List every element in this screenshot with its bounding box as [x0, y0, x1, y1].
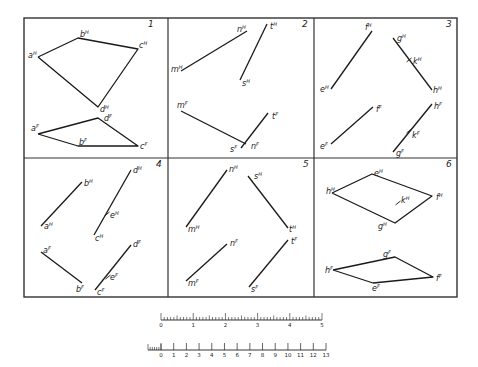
point-label-e-F: eF	[320, 141, 328, 152]
point-label-b-F: bF	[76, 284, 84, 295]
point-label-e-H: eH	[374, 168, 383, 179]
scale-label: 6	[235, 352, 239, 358]
point-label-n-F: nF	[230, 238, 238, 249]
point-label-n-F: nF	[251, 141, 259, 152]
point-label-k-H: kH	[413, 56, 422, 67]
line-st-frontal	[249, 240, 288, 287]
horizontal-projection-quadrilateral-abcd	[38, 38, 138, 107]
line-mn-horizontal	[181, 31, 247, 71]
panel-4: 4bHaHdHeHcHaFbFdFeFcF	[41, 159, 162, 297]
point-label-a-F: aF	[31, 123, 39, 134]
line-ef-frontal	[331, 107, 373, 144]
point-label-h-F: hF	[434, 101, 442, 112]
panel-1: 1aHbHcHdHaFbFcFdF	[28, 19, 154, 151]
point-label-a-F: aF	[43, 245, 51, 256]
scale-label: 1	[191, 322, 195, 328]
point-label-m-H: mH	[171, 64, 183, 75]
drawing-canvas: 1aHbHcHdHaFbFcFdF2mHnHtHsHmFtFsFnF3eHfHg…	[0, 0, 478, 367]
point-label-f-H: fH	[365, 22, 372, 33]
panel-3: 3eHfHgHkHhHeFfFhFkFgF	[320, 19, 452, 158]
line-ef-horizontal	[331, 31, 372, 89]
scale-label: 12	[310, 352, 317, 358]
point-label-k-H: kH	[401, 195, 410, 206]
panel-number: 1	[148, 19, 154, 29]
line-ab-frontal	[41, 252, 82, 283]
scale-label: 13	[323, 352, 330, 358]
point-label-f-H: fH	[436, 192, 443, 203]
point-label-f-F: fF	[376, 104, 382, 115]
scale-label: 8	[261, 352, 265, 358]
point-label-s-H: sH	[254, 171, 262, 182]
scale-label: 3	[256, 322, 260, 328]
point-label-s-F: sF	[230, 144, 237, 155]
panel-number: 2	[302, 19, 308, 29]
scale-label: 2	[185, 352, 189, 358]
line-gh-frontal	[393, 104, 432, 152]
scale-label: 0	[159, 322, 163, 328]
scale-label: 5	[320, 322, 324, 328]
point-label-k-F: kF	[412, 130, 420, 141]
scale-label: 1	[172, 352, 176, 358]
line-mn-horizontal	[186, 170, 227, 227]
point-label-b-H: bH	[84, 178, 93, 189]
point-label-g-H: gH	[397, 33, 406, 44]
point-label-c-F: cF	[140, 141, 147, 152]
horizontal-projection-quadrilateral-efgh	[332, 174, 432, 223]
scale-label: 4	[210, 352, 214, 358]
point-label-s-H: sH	[242, 78, 250, 89]
point-label-m-H: mH	[188, 224, 200, 235]
point-label-c-H: cH	[95, 233, 103, 244]
scale-label: 7	[248, 352, 252, 358]
scale-bar-upper: 012345	[159, 313, 324, 328]
panel-6: 6hHeHkHfHgHgFhFfFeF	[325, 159, 452, 293]
line-mn-frontal	[186, 244, 227, 281]
panel-number: 6	[446, 159, 452, 169]
scale-label: 3	[197, 352, 201, 358]
panel-grid-frame	[24, 18, 457, 297]
point-label-h-F: hF	[325, 265, 333, 276]
point-label-t-F: tF	[272, 111, 278, 122]
point-label-h-H: hH	[433, 85, 442, 96]
point-label-c-H: cH	[139, 40, 147, 51]
panel-2: 2mHnHtHsHmFtFsFnF	[171, 19, 308, 154]
point-label-m-F: mF	[177, 100, 188, 111]
panel-number: 3	[446, 19, 452, 29]
point-label-f-F: fF	[436, 273, 442, 284]
point-label-s-F: sF	[251, 284, 258, 295]
orthographic-projection-exercise-sheet: 1aHbHcHdHaFbFcFdF2mHnHtHsHmFtFsFnF3eHfHg…	[0, 0, 478, 367]
scale-label: 0	[159, 352, 163, 358]
point-label-d-H: dH	[133, 165, 142, 176]
line-st-horizontal	[248, 176, 288, 228]
panel-number: 5	[303, 159, 309, 169]
point-label-e-H: eH	[320, 84, 329, 95]
point-marker-tick	[396, 201, 401, 205]
frontal-projection-quadrilateral-abcd	[38, 118, 138, 146]
frontal-projection-quadrilateral-efgh	[333, 257, 433, 283]
point-label-d-F: dF	[104, 113, 112, 124]
scale-label: 4	[288, 322, 292, 328]
point-label-m-F: mF	[188, 278, 199, 289]
line-ab-horizontal	[41, 182, 82, 226]
scale-label: 9	[273, 352, 277, 358]
point-label-a-H: aH	[44, 221, 53, 232]
point-label-t-H: tH	[270, 21, 277, 32]
point-label-g-H: gH	[378, 221, 387, 232]
point-label-a-H: aH	[28, 50, 37, 61]
scale-label: 2	[224, 322, 228, 328]
point-label-t-H: tH	[289, 224, 296, 235]
scale-label: 10	[284, 352, 291, 358]
line-cd-horizontal	[94, 170, 131, 235]
point-label-b-H: bH	[80, 29, 89, 40]
point-label-g-F: gF	[396, 148, 404, 159]
point-label-c-F: cF	[97, 287, 104, 298]
scale-bar-lower: 012345678910111213	[148, 343, 330, 358]
scale-label: 11	[297, 352, 304, 358]
line-mn-frontal	[181, 111, 246, 144]
point-label-e-F: eF	[372, 283, 380, 294]
point-label-e-H: eH	[110, 210, 119, 221]
line-cd-frontal	[95, 245, 131, 290]
panel-5: 5nHsHmHtHnFtFmFsF	[186, 159, 309, 294]
point-label-d-H: dH	[100, 104, 109, 115]
point-label-d-F: dF	[133, 239, 141, 250]
point-label-n-H: nH	[229, 164, 238, 175]
